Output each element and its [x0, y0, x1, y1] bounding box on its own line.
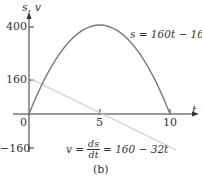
tick-label-5: 5	[96, 117, 103, 128]
y-axis-label: s, v	[22, 2, 41, 13]
position-equation-text: s = 160t − 16t	[130, 28, 202, 40]
velocity-fraction: ds dt	[87, 139, 100, 159]
figure-caption: (b)	[93, 164, 109, 175]
x-axis-label: t	[192, 105, 196, 116]
tick-label-160: 160	[6, 74, 27, 85]
position-equation: s = 160t − 16t2	[130, 28, 202, 39]
fraction-denominator: dt	[89, 150, 99, 160]
velocity-equation-lhs: v =	[66, 144, 84, 155]
tick-label-0: 0	[20, 117, 27, 128]
tick-label-400: 400	[6, 21, 27, 32]
tick-label-10: 10	[163, 117, 177, 128]
velocity-equation-rhs: = 160 − 32t	[103, 144, 168, 155]
fraction-numerator: ds	[87, 139, 100, 150]
tick-label-neg160: −160	[0, 143, 30, 154]
velocity-equation: v = ds dt = 160 − 32t	[66, 139, 168, 159]
